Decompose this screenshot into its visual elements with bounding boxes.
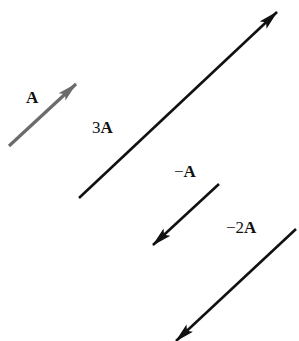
vector-diagram [0, 0, 299, 341]
label-neg-a-coef: − [174, 162, 184, 181]
label-3a-vec: A [101, 118, 113, 137]
label-neg-a-vec: A [184, 162, 196, 181]
label-neg-2a-vec: A [244, 218, 256, 237]
label-3a-coef: 3 [92, 118, 101, 137]
vector-neg-a [153, 184, 219, 245]
vector-neg-2a [176, 229, 296, 341]
label-3a: 3A [92, 119, 113, 136]
label-a: A [26, 89, 38, 106]
label-neg-2a-coef: −2 [226, 218, 244, 237]
vector-neg-a-arrow-icon [153, 184, 219, 245]
label-a-vec: A [26, 88, 38, 107]
vector-a [9, 84, 76, 146]
vector-a-arrow-icon [9, 84, 76, 146]
label-neg-2a: −2A [226, 219, 256, 236]
label-neg-a: −A [174, 163, 196, 180]
vector-neg-2a-arrow-icon [176, 229, 296, 341]
